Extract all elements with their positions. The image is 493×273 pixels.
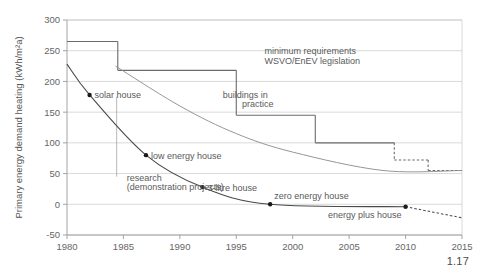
- x-tick-label: 2015: [451, 241, 472, 252]
- data-point-label: low energy house: [151, 151, 222, 161]
- x-tick-label: 1990: [169, 241, 190, 252]
- figure-container: -500501001502002503001980198519901995200…: [0, 0, 493, 273]
- data-point-marker: [403, 205, 407, 209]
- y-tick-label: 150: [44, 107, 60, 118]
- x-tick-label: 2000: [282, 241, 303, 252]
- annotation-research-line2: (demonstration projects): [127, 182, 224, 192]
- y-tick-label: 50: [49, 168, 60, 179]
- data-point-marker: [87, 93, 91, 97]
- demonstration-projects-curve-dashed: [406, 207, 462, 218]
- data-point-label: energy plus house: [328, 210, 402, 220]
- y-tick-label: 0: [55, 199, 60, 210]
- annotation-buildings-in-practice-line2: practice: [242, 99, 274, 109]
- y-axis-title: Primary energy demand heating (kWh/m²a): [13, 36, 24, 218]
- data-point-marker: [144, 153, 148, 157]
- y-tick-label: 250: [44, 45, 60, 56]
- x-tick-label: 1985: [113, 241, 134, 252]
- data-point-marker: [268, 202, 272, 206]
- x-tick-label: 2010: [395, 241, 416, 252]
- x-tick-label: 2005: [339, 241, 360, 252]
- annotation-minimum-requirements: minimum requirements: [265, 46, 357, 56]
- energy-demand-chart: -500501001502002503001980198519901995200…: [0, 0, 493, 273]
- x-tick-label: 1980: [56, 241, 77, 252]
- y-tick-label: 200: [44, 76, 60, 87]
- x-tick-label: 1995: [226, 241, 247, 252]
- y-tick-label: -50: [46, 229, 60, 240]
- y-tick-label: 100: [44, 137, 60, 148]
- data-point-label: zero energy house: [274, 191, 349, 201]
- y-tick-label: 300: [44, 14, 60, 25]
- figure-number: 1.17: [447, 255, 469, 267]
- annotation-wsvo-enev-legislation: WSVO/EnEV legislation: [265, 56, 361, 66]
- data-point-label: solar house: [95, 90, 142, 100]
